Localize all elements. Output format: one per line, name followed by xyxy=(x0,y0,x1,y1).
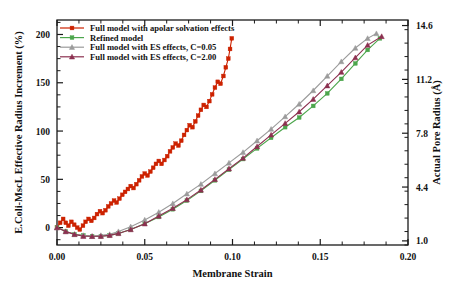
series-marker-0 xyxy=(134,182,138,186)
series-marker-0 xyxy=(228,47,232,51)
y-tick-label: 150 xyxy=(36,78,51,88)
series-marker-1 xyxy=(366,48,370,52)
x-tick-label: 0.00 xyxy=(49,252,66,262)
series-marker-0 xyxy=(205,105,209,109)
y-tick-label: 50 xyxy=(41,175,51,185)
series-marker-2 xyxy=(365,36,370,41)
series-marker-0 xyxy=(230,36,234,40)
series-marker-3 xyxy=(379,34,384,39)
legend-label-2: Full model with ES effects, C=0.05 xyxy=(90,42,216,52)
series-marker-1 xyxy=(297,116,301,120)
series-marker-0 xyxy=(213,86,217,90)
series-marker-0 xyxy=(146,174,150,178)
series-marker-0 xyxy=(81,224,85,228)
series-marker-0 xyxy=(226,57,230,61)
series-marker-0 xyxy=(199,108,203,112)
series-marker-0 xyxy=(168,149,172,153)
series-marker-0 xyxy=(92,216,96,220)
y2-tick-label: 7.8 xyxy=(416,129,428,139)
y2-tick-label: 1.0 xyxy=(416,236,428,246)
series-marker-0 xyxy=(132,186,136,190)
legend-label-3: Full model with ES effects, C=2.00 xyxy=(90,52,216,62)
series-marker-0 xyxy=(163,158,167,162)
series-marker-0 xyxy=(224,65,228,69)
y2-tick-label: 11.2 xyxy=(416,75,432,85)
series-marker-0 xyxy=(210,92,214,96)
series-marker-0 xyxy=(179,139,183,143)
x-tick-label: 0.05 xyxy=(136,252,153,262)
chart-canvas: 0.000.050.100.150.200501001502001.04.47.… xyxy=(0,0,453,295)
series-marker-0 xyxy=(182,133,186,137)
series-marker-0 xyxy=(193,119,197,123)
series-marker-0 xyxy=(207,99,211,103)
series-marker-0 xyxy=(219,82,223,86)
legend-label-0: Full model with apolar solvation effects xyxy=(90,23,235,33)
y-tick-label: 100 xyxy=(36,127,51,137)
series-marker-1 xyxy=(311,104,315,108)
series-marker-0 xyxy=(148,170,152,174)
series-marker-0 xyxy=(151,166,155,170)
series-line-1 xyxy=(57,38,380,236)
y-axis-title: E.Coli-MscL Effective Radius Increment (… xyxy=(13,31,25,234)
y2-axis-title: Actual Pore Radius (Å) xyxy=(431,80,443,185)
series-marker-0 xyxy=(221,74,225,78)
series-marker-0 xyxy=(61,217,65,221)
series-line-2 xyxy=(57,34,376,237)
x-axis-title: Membrane Strain xyxy=(192,268,272,279)
series-marker-0 xyxy=(185,128,189,132)
series-marker-0 xyxy=(67,224,71,228)
series-marker-0 xyxy=(177,144,181,148)
series-marker-0 xyxy=(191,125,195,129)
series-marker-0 xyxy=(165,154,169,158)
legend-marker-1 xyxy=(70,36,74,40)
x-tick-label: 0.15 xyxy=(312,252,329,262)
series-line-3 xyxy=(57,36,382,236)
series-marker-0 xyxy=(118,197,122,201)
series-marker-2 xyxy=(374,31,379,36)
series-marker-1 xyxy=(339,77,343,81)
series-line-0 xyxy=(57,38,232,229)
series-marker-3 xyxy=(365,43,370,48)
series-marker-0 xyxy=(137,178,141,182)
series-marker-0 xyxy=(78,228,82,232)
y-tick-label: 200 xyxy=(36,30,51,40)
series-marker-0 xyxy=(196,114,200,118)
series-marker-1 xyxy=(283,125,287,129)
x-tick-label: 0.10 xyxy=(224,252,241,262)
series-marker-0 xyxy=(115,201,119,205)
series-marker-1 xyxy=(353,62,357,66)
legend-label-1: Refined model xyxy=(90,33,144,43)
series-marker-0 xyxy=(171,146,175,150)
y2-tick-label: 14.6 xyxy=(416,21,433,31)
y2-tick-label: 4.4 xyxy=(416,183,428,193)
series-marker-0 xyxy=(58,221,62,225)
series-marker-0 xyxy=(104,208,108,212)
y-tick-label: 0 xyxy=(45,223,50,233)
series-marker-0 xyxy=(160,162,164,166)
legend-marker-0 xyxy=(70,26,74,30)
chart-figure: 0.000.050.100.150.200501001502001.04.47.… xyxy=(0,0,453,295)
x-tick-label: 0.20 xyxy=(400,252,417,262)
series-marker-1 xyxy=(325,91,329,95)
